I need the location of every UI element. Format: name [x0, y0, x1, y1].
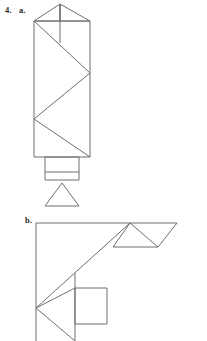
- base-square: [45, 157, 79, 180]
- zigzag-diagonal-middle: [34, 73, 90, 119]
- tangram-figures-canvas: [0, 0, 207, 341]
- top-right-triangle-left: [113, 223, 130, 247]
- top-right-triangle-right: [130, 223, 158, 247]
- apex-right-triangle: [60, 4, 90, 21]
- upper-body-rectangle: [34, 21, 90, 157]
- right-square: [75, 288, 107, 324]
- zigzag-diagonal-lower: [34, 119, 90, 157]
- long-diagonal: [36, 223, 130, 308]
- tangram-figure-b: [36, 223, 177, 341]
- bottom-left-chevron-lower: [36, 308, 75, 341]
- worksheet-page: 4. a. b.: [0, 0, 207, 341]
- tangram-figure-a: [34, 4, 90, 206]
- zigzag-diagonal-upper: [34, 21, 90, 73]
- apex-left-triangle: [34, 4, 60, 21]
- lower-triangle: [45, 183, 79, 206]
- top-right-outer-edge: [158, 223, 177, 247]
